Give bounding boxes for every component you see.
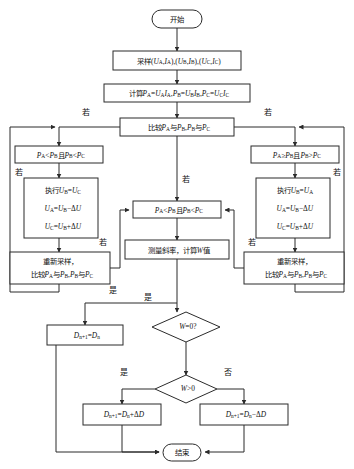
- d-minus-label: Dn+1=Dn−ΔD: [209, 410, 279, 419]
- resample-right-line-1: 重新采样，: [277, 257, 312, 266]
- edge-compare-to-cond-right: [234, 127, 295, 146]
- w-zero-shi: 是: [144, 293, 152, 302]
- node-compute-power: 计算PA=UAIA,PB=UBIB,PC=UCIC: [104, 84, 250, 102]
- edge-wpos-no-to-dminus: [217, 389, 244, 404]
- exec-left-line-2: UA=UB−ΔU: [28, 204, 94, 213]
- decision-w-positive-label: W>0: [164, 384, 208, 393]
- node-cond-mid: PA<PB且PB<PC: [133, 201, 221, 218]
- node-cond-right: PA≥PB且PB>PC: [251, 146, 339, 163]
- node-start: 开始: [152, 10, 202, 28]
- loop-left-ruo: 若: [15, 167, 23, 177]
- edge-dplus-to-end: [122, 425, 159, 452]
- edge-compare-to-cond-left: [59, 127, 120, 146]
- edge-wpos-yes-to-dplus: [122, 389, 155, 404]
- node-d-keep: Dn+1=Dn: [47, 325, 123, 345]
- exec-right-line-2: UA=UB−ΔU: [260, 204, 326, 213]
- edge-dminus-to-end: [205, 425, 244, 452]
- start-label: 开始: [170, 15, 185, 24]
- loop-right-ruo: 若: [333, 167, 341, 177]
- resample-left-line-1: 重新采样，: [43, 257, 78, 266]
- w-pos-shi: 是: [120, 368, 128, 377]
- exec-right-line-3: UC=UB+ΔU: [260, 222, 326, 231]
- decision-w-zero-label: W=0?: [163, 322, 210, 331]
- mid-shi: 是: [109, 286, 117, 295]
- edge-dkeep-to-end: [56, 345, 159, 452]
- branch-right-ruo: 若: [264, 107, 272, 117]
- node-sample: 采样(UA,IA),(UB,IB),(UC,IC): [113, 51, 241, 70]
- node-cond-left: PA<PB且PB<PC: [15, 146, 103, 163]
- branch-mid-ruo: 若: [182, 174, 190, 184]
- flowchart-page: 开始 采样(UA,IA),(UB,IB),(UC,IC) 计算PA=UAIA,P…: [0, 0, 354, 469]
- resample-right-ruo: 若: [248, 237, 256, 247]
- resample-left-ruo: 若: [99, 237, 107, 247]
- node-decision-w-equals-zero: W=0?: [152, 312, 220, 342]
- node-measure-w: 测量斜率，计算W值: [125, 240, 229, 259]
- node-resample-left: 重新采样， 比较PA与PB,PB与PC: [10, 252, 110, 284]
- node-exec-left: 执行UB=UC UA=UB−ΔU UC=UB+ΔU: [24, 178, 98, 238]
- w-pos-fou: 否: [224, 368, 232, 377]
- node-end: 结束: [163, 444, 201, 461]
- exec-left-line-3: UC=UB+ΔU: [28, 222, 94, 231]
- measure-w-label: 测量斜率，计算W值: [131, 245, 223, 254]
- node-resample-right: 重新采样， 比较PA与PB,PB与PC: [244, 252, 344, 284]
- node-exec-right: 执行UB=UA UA=UB−ΔU UC=UB+ΔU: [256, 178, 330, 238]
- d-plus-label: Dn+1=Dn+ΔD: [87, 410, 157, 419]
- node-d-minus: Dn+1=Dn−ΔD: [200, 404, 288, 425]
- flowchart-canvas: 开始 采样(UA,IA),(UB,IB),(UC,IC) 计算PA=UAIA,P…: [0, 0, 354, 469]
- node-decision-w-positive: W>0: [155, 375, 217, 403]
- end-label: 结束: [175, 448, 190, 457]
- node-d-plus: Dn+1=Dn+ΔD: [83, 404, 161, 425]
- branch-left-ruo: 若: [82, 107, 90, 117]
- node-compare-top: 比较PA与PB,PB与PC: [120, 118, 234, 136]
